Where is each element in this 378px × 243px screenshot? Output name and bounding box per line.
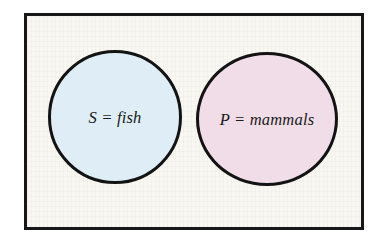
- set-circle-predicate: P = mammals: [196, 52, 338, 186]
- set-label-predicate: P = mammals: [220, 112, 315, 129]
- set-label-subject: S = fish: [88, 110, 141, 127]
- set-circle-subject: S = fish: [48, 50, 182, 184]
- diagram-frame: S = fish P = mammals: [24, 13, 364, 230]
- figure-root: S = fish P = mammals: [0, 0, 378, 243]
